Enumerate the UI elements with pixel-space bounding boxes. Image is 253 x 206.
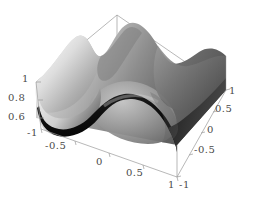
- x-tick-label-1: 1: [168, 180, 175, 190]
- y-tick-label-neg0-5: -0.5: [194, 145, 215, 155]
- y-tick-label-0-5: 0.5: [215, 104, 232, 114]
- surface-plot-figure: 1 0.8 0.6 -1 -0.5 0 0.5 1 -1 -0.5 0 0.5 …: [0, 0, 253, 206]
- x-tick-label-neg1: -1: [27, 128, 38, 138]
- y-tick-label-neg1: -1: [179, 180, 190, 190]
- x-tick-label-neg0-5: -0.5: [45, 141, 66, 151]
- z-tick-label-0-8: 0.8: [8, 93, 25, 103]
- y-tick-label-0: 0: [207, 125, 214, 135]
- z-tick-label-0-6: 0.6: [8, 112, 25, 122]
- surface-mesh: [36, 23, 226, 152]
- x-tick-label-0: 0: [96, 157, 103, 167]
- z-tick-label-1: 1: [22, 74, 29, 84]
- x-tick-label-0-5: 0.5: [126, 168, 143, 178]
- y-tick-label-1: 1: [229, 86, 236, 96]
